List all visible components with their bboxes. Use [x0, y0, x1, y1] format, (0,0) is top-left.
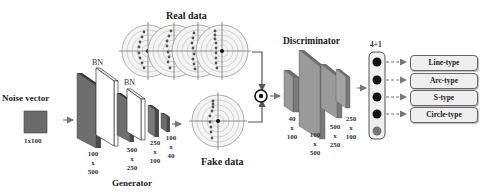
dim-bot: 500	[83, 168, 103, 177]
bn-label-2: BN	[124, 78, 135, 87]
discriminator-title: Discriminator	[283, 36, 340, 46]
dim-bot: 500	[305, 149, 325, 158]
dim-top: 100	[163, 134, 179, 143]
fake-data-title: Fake data	[201, 156, 244, 167]
dim-top: 100	[83, 150, 103, 159]
dim-bot: 250	[325, 141, 345, 150]
generator-layer-2-dims: 500 x 250	[122, 146, 142, 173]
noise-vector-size: 1x100	[24, 137, 42, 146]
output-title: 4+1	[370, 40, 382, 49]
dim-top: 40	[282, 115, 302, 124]
dim-bot: 250	[122, 164, 142, 173]
generator-layer-4-dims: 100 x 40	[163, 134, 179, 161]
class-box-circle-type: Circle-type	[410, 107, 478, 123]
discriminator-layer-1-dims: 40 x 100	[282, 115, 302, 142]
combine-node	[255, 90, 267, 102]
dim-mid: x	[305, 140, 325, 149]
noise-vector-square	[24, 111, 47, 133]
output-node-arc	[373, 76, 382, 85]
real-data-title: Real data	[166, 10, 207, 21]
dim-top: 100	[305, 131, 325, 140]
dim-top: 500	[122, 146, 142, 155]
dim-bot: 100	[282, 133, 302, 142]
dim-mid: x	[341, 124, 361, 133]
fake-data-connector	[248, 101, 262, 122]
dim-bot: 100	[146, 157, 164, 166]
discriminator-layer-4	[336, 69, 350, 108]
class-box-s-type: S-type	[410, 90, 478, 106]
noise-vector-title: Noise vector	[2, 93, 49, 103]
dim-mid: x	[146, 148, 164, 157]
dim-mid: x	[163, 143, 179, 152]
output-node-fake	[373, 127, 382, 136]
generator-title: Generator	[112, 178, 152, 188]
discriminator-layer-1	[284, 70, 299, 112]
class-box-line-type: Line-type	[410, 55, 478, 71]
output-node-s	[373, 93, 382, 102]
dim-mid: x	[83, 159, 103, 168]
generator-bn-layer-1	[96, 68, 118, 146]
output-node-circle	[373, 110, 382, 119]
real-data-connector	[252, 52, 262, 90]
dim-bot: 40	[163, 152, 179, 161]
generator-layer-3	[148, 105, 159, 137]
generator-layer-4	[161, 113, 170, 132]
dim-mid: x	[282, 124, 302, 133]
bn-label-1: BN	[92, 58, 103, 67]
output-node-line	[373, 58, 382, 67]
dim-mid: x	[122, 155, 142, 164]
discriminator-layer-2-dims: 100 x 500	[305, 131, 325, 158]
dim-top: 250	[146, 139, 164, 148]
generator-bn-layer-2	[127, 89, 145, 140]
dim-bot: 100	[341, 133, 361, 142]
generator-layer-3-dims: 250 x 100	[146, 139, 164, 166]
dim-top: 250	[341, 115, 361, 124]
class-box-arc-type: Arc-type	[410, 73, 478, 89]
discriminator-layer-4-dims: 250 x 100	[341, 115, 361, 142]
fake-data-plot	[189, 92, 247, 150]
generator-layer-1-dims: 100 x 500	[83, 150, 103, 177]
